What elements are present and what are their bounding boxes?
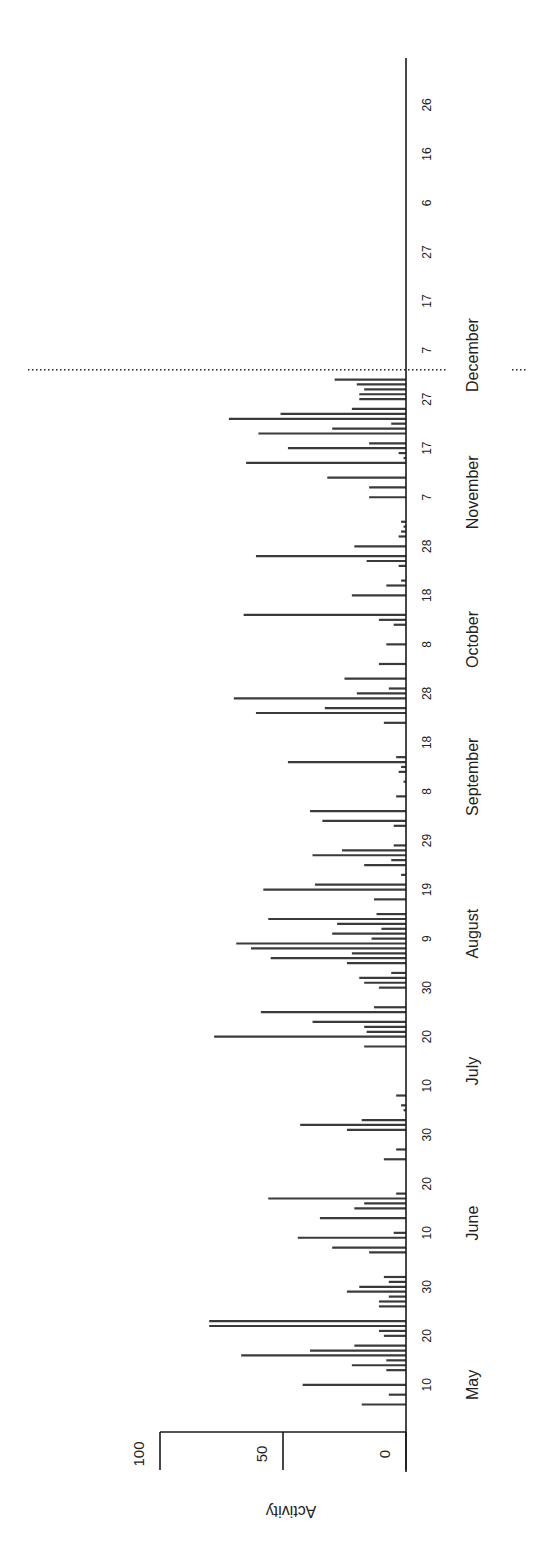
value-tick-label: 100 xyxy=(130,1441,147,1466)
date-tick-labels: 1020301020301020309192981828818287172771… xyxy=(420,98,434,1392)
date-tick-label: 18 xyxy=(420,735,434,749)
date-tick-label: 27 xyxy=(420,392,434,406)
date-tick-label: 7 xyxy=(420,494,434,501)
date-tick-label: 27 xyxy=(420,245,434,259)
month-label: August xyxy=(464,908,481,958)
date-tick-label: 8 xyxy=(420,788,434,795)
date-tick-label: 20 xyxy=(420,1329,434,1343)
month-label: June xyxy=(464,1206,481,1241)
date-tick-label: 30 xyxy=(420,981,434,995)
activity-bar-chart: 1020301020301020309192981828818287172771… xyxy=(0,0,535,1541)
date-tick-label: 7 xyxy=(420,346,434,353)
date-tick-label: 8 xyxy=(420,641,434,648)
date-tick-label: 17 xyxy=(420,294,434,308)
value-tick-label: 50 xyxy=(253,1446,270,1463)
date-tick-label: 10 xyxy=(420,1226,434,1240)
value-tick-labels: 050100 xyxy=(130,1441,393,1466)
date-tick-label: 28 xyxy=(420,539,434,553)
date-tick-label: 20 xyxy=(420,1177,434,1191)
date-tick-label: 6 xyxy=(420,199,434,206)
date-tick-label: 10 xyxy=(420,1079,434,1093)
date-tick-label: 18 xyxy=(420,588,434,602)
date-tick-label: 28 xyxy=(420,686,434,700)
month-label: September xyxy=(464,737,481,816)
date-tick-label: 9 xyxy=(420,935,434,942)
value-axis xyxy=(160,1432,406,1470)
date-tick-label: 26 xyxy=(420,98,434,112)
date-tick-label: 30 xyxy=(420,1280,434,1294)
date-tick-label: 30 xyxy=(420,1128,434,1142)
date-tick-label: 19 xyxy=(420,883,434,897)
month-label: May xyxy=(464,1370,481,1400)
value-tick-label: 0 xyxy=(376,1450,393,1458)
value-axis-title: Activity xyxy=(266,1503,317,1520)
date-tick-label: 10 xyxy=(420,1378,434,1392)
date-tick-label: 20 xyxy=(420,1030,434,1044)
month-labels: MayJuneJulyAugustSeptemberOctoberNovembe… xyxy=(464,317,481,1400)
month-label: December xyxy=(464,317,481,391)
bars-layer xyxy=(209,380,406,1405)
date-tick-label: 16 xyxy=(420,147,434,161)
month-label: November xyxy=(464,455,481,529)
month-label: October xyxy=(464,610,481,668)
date-tick-label: 29 xyxy=(420,834,434,848)
date-tick-label: 17 xyxy=(420,441,434,455)
month-label: July xyxy=(464,1057,481,1085)
